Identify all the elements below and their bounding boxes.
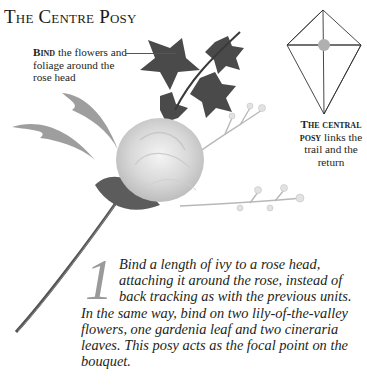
step-text: Bind a length of ivy to a rose head, att…: [81, 256, 351, 369]
annotation-bind-lead: Bind: [33, 46, 55, 58]
rose-head: [116, 118, 204, 202]
leader-line: [126, 53, 176, 54]
annotation-bind: Bind the flowers and foliage around the …: [33, 46, 133, 84]
ivy: [140, 32, 244, 122]
step-1-instructions: 1 Bind a length of ivy to a rose head, a…: [81, 256, 365, 369]
cineraria-leaves: [12, 93, 118, 160]
central-posy-marker: [318, 39, 330, 51]
posy-position-diagram: [280, 5, 367, 120]
annotation-central-posy: The central posy links the trail and the…: [296, 118, 366, 168]
step-number: 1: [85, 258, 113, 302]
